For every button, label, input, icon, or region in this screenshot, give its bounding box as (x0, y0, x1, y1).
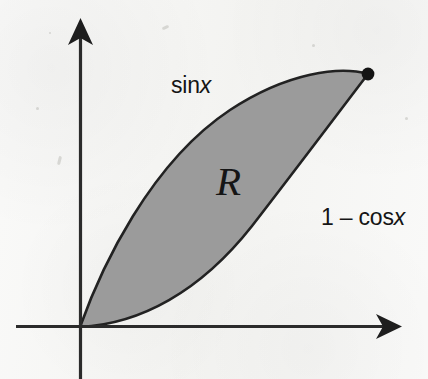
plot-canvas (0, 0, 428, 379)
curve-label-one-minus-cos-x-variable: x (394, 204, 405, 230)
intersection-point-marker (362, 68, 375, 81)
curve-label-one-minus-cos-x: 1 – cosx (321, 206, 405, 229)
curve-label-sin-x-variable: x (200, 72, 211, 98)
math-figure-region-r: sinx 1 – cosx R (0, 0, 428, 379)
curve-label-sin-x: sinx (171, 74, 211, 97)
curve-label-sin-x-text: sin (171, 72, 200, 98)
region-label-r: R (216, 161, 241, 202)
curve-label-one-minus-cos-x-text: 1 – cos (321, 204, 394, 230)
